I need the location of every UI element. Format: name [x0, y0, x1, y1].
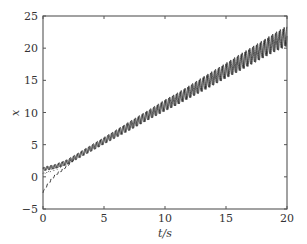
series-solid-line	[43, 27, 287, 171]
x-tick-label: 10	[158, 212, 172, 225]
y-tick-label: 25	[24, 10, 38, 23]
y-tick-label: 20	[24, 42, 38, 55]
x-tick-label: 20	[280, 212, 294, 225]
y-tick-label: 15	[24, 74, 38, 87]
x-axis-label: t/s	[158, 227, 172, 240]
x-tick-label: 15	[219, 212, 233, 225]
plot-curves	[43, 27, 287, 193]
axis-ticks	[43, 16, 287, 209]
y-axis-label: x	[9, 109, 22, 116]
axes-frame	[43, 16, 287, 209]
y-tick-label: 0	[31, 171, 38, 184]
tick-labels: 05101520−50510152025	[22, 10, 294, 225]
x-tick-label: 5	[101, 212, 108, 225]
y-tick-label: 10	[24, 107, 38, 120]
x-tick-label: 0	[40, 212, 47, 225]
series-solid-line	[43, 27, 287, 170]
y-tick-label: −5	[22, 203, 38, 216]
y-tick-label: 5	[31, 139, 38, 152]
line-chart: 05101520−50510152025 t/s x	[0, 0, 307, 244]
